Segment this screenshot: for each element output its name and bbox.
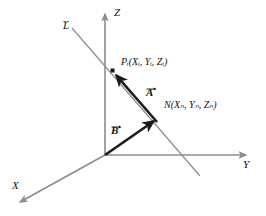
right-arrow-accent-icon <box>146 86 157 92</box>
double-headed-arrow-icon <box>63 20 69 23</box>
axis-x <box>20 155 105 202</box>
line-label-L-wrap: L <box>63 20 69 31</box>
vector-diagram-figure: Z Y X L Pᵢ(Xᵢ, Yᵢ, Zᵢ) N(Xₙ, Yₙ, Zₙ) A <box>0 0 266 216</box>
vector-a <box>116 75 157 122</box>
point-p-marker <box>111 69 115 73</box>
axis-label-y: Y <box>243 159 249 170</box>
vector-a-arrow <box>116 75 157 122</box>
vector-label-a: A <box>146 86 153 98</box>
vector-label-b: B <box>111 124 118 136</box>
point-label-n: N(Xₙ, Yₙ, Zₙ) <box>164 100 217 110</box>
point-label-n-text: N(Xₙ, Yₙ, Zₙ) <box>164 99 217 110</box>
vector-label-b-wrap: B <box>111 124 118 136</box>
axis-x-line <box>20 155 105 202</box>
point-label-p-text: Pᵢ(Xᵢ, Yᵢ, Zᵢ) <box>121 56 167 67</box>
axis-label-x: X <box>12 180 19 191</box>
point-label-p: Pᵢ(Xᵢ, Yᵢ, Zᵢ) <box>121 57 167 67</box>
axis-label-z: Z <box>114 7 120 18</box>
right-arrow-accent-icon <box>111 124 122 130</box>
vector-label-a-wrap: A <box>146 86 153 98</box>
line-label-L: L <box>63 20 69 31</box>
diagram-canvas <box>0 0 266 216</box>
